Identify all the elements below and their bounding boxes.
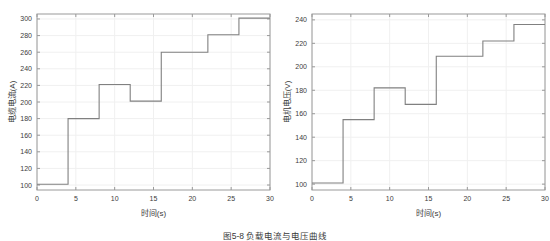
y-tick-label: 180 xyxy=(20,115,32,122)
y-tick-label: 100 xyxy=(295,181,307,188)
x-tick-label: 10 xyxy=(111,195,119,202)
y-tick-label: 200 xyxy=(20,99,32,106)
y-tick-label: 200 xyxy=(295,63,307,70)
x-tick-label: 10 xyxy=(386,195,394,202)
x-axis-label: 时间(s) xyxy=(416,208,442,218)
y-tick-label: 180 xyxy=(295,87,307,94)
x-tick-label: 20 xyxy=(463,195,471,202)
x-tick-label: 25 xyxy=(227,195,235,202)
chart-panel-cable-current: 0510152025301001201401601802002202402602… xyxy=(0,0,275,228)
y-tick-label: 140 xyxy=(20,148,32,155)
x-tick-label: 30 xyxy=(266,195,274,202)
y-tick-label: 160 xyxy=(20,132,32,139)
figure-container: 0510152025301001201401601802002202402602… xyxy=(0,0,550,241)
y-tick-label: 100 xyxy=(20,182,32,189)
x-axis-label: 时间(s) xyxy=(141,208,167,218)
y-axis-label: 电缆电流(A) xyxy=(7,80,17,123)
x-tick-label: 30 xyxy=(541,195,549,202)
y-tick-label: 240 xyxy=(20,65,32,72)
y-tick-label: 120 xyxy=(295,157,307,164)
x-tick-label: 0 xyxy=(310,195,314,202)
x-tick-label: 5 xyxy=(74,195,78,202)
y-tick-label: 120 xyxy=(20,165,32,172)
x-tick-label: 5 xyxy=(349,195,353,202)
y-tick-label: 220 xyxy=(20,82,32,89)
y-tick-label: 240 xyxy=(295,16,307,23)
cable-current-plot: 0510152025301001201401601802002202402602… xyxy=(0,0,275,228)
y-tick-label: 260 xyxy=(20,49,32,56)
x-tick-label: 0 xyxy=(35,195,39,202)
y-tick-label: 160 xyxy=(295,110,307,117)
y-axis-label: 电机电压(V) xyxy=(282,80,292,123)
x-tick-label: 25 xyxy=(502,195,510,202)
x-tick-label: 15 xyxy=(150,195,158,202)
motor-voltage-plot: 051015202530100120140160180200220240时间(s… xyxy=(275,0,550,228)
y-tick-label: 300 xyxy=(20,15,32,22)
chart-panel-motor-voltage: 051015202530100120140160180200220240时间(s… xyxy=(275,0,550,228)
figure-caption: 图5-8 负载电流与电压曲线 xyxy=(0,231,550,241)
y-tick-label: 220 xyxy=(295,40,307,47)
x-tick-label: 20 xyxy=(188,195,196,202)
y-tick-label: 280 xyxy=(20,32,32,39)
y-tick-label: 140 xyxy=(295,134,307,141)
x-tick-label: 15 xyxy=(425,195,433,202)
